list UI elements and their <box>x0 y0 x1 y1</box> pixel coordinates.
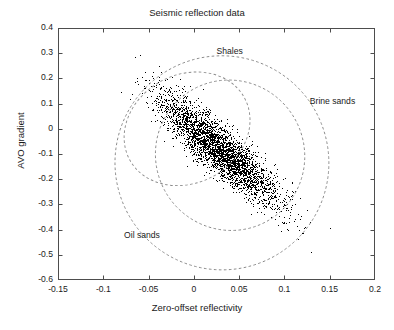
seismic-scatter-figure: Seismic reflection data AVO gradient Zer… <box>0 0 394 330</box>
x-tick-label: 0 <box>172 284 216 294</box>
plot-canvas <box>0 0 394 330</box>
y-tick-label: -0.1 <box>13 148 53 158</box>
y-tick-label: 0.2 <box>13 72 53 82</box>
x-tick-label: 0.2 <box>353 284 394 294</box>
x-tick-label: 0.1 <box>262 284 306 294</box>
axis-frame <box>59 29 375 280</box>
x-tick-label: 0.15 <box>308 284 352 294</box>
y-tick-label: -0.6 <box>13 274 53 284</box>
y-tick-label: -0.4 <box>13 224 53 234</box>
x-tick-label: 0.05 <box>217 284 261 294</box>
y-tick-label: -0.2 <box>13 173 53 183</box>
y-tick-label: -0.5 <box>13 249 53 259</box>
x-tick-label: -0.05 <box>127 284 171 294</box>
x-tick-label: -0.15 <box>36 284 80 294</box>
y-tick-label: -0.3 <box>13 198 53 208</box>
contour-annotation: Oil sands <box>124 230 160 240</box>
x-tick-label: -0.1 <box>81 284 125 294</box>
y-tick-label: 0 <box>13 123 53 133</box>
y-tick-label: 0.1 <box>13 98 53 108</box>
contour-annotation: Brine sands <box>310 96 355 106</box>
y-tick-label: 0.4 <box>13 22 53 32</box>
contour-annotation: Shales <box>217 46 243 56</box>
y-tick-label: 0.3 <box>13 47 53 57</box>
